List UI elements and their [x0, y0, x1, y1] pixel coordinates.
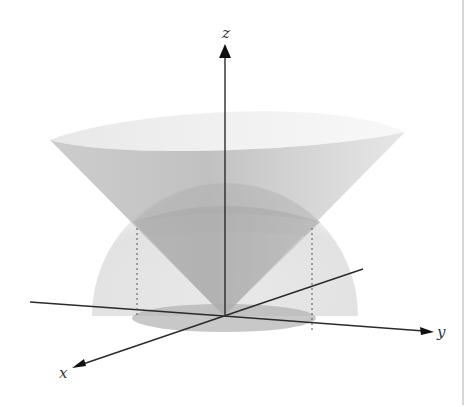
z-axis-arrow-icon: [219, 44, 231, 58]
z-axis-label: z: [221, 24, 230, 42]
x-axis-arrow-icon: [72, 359, 86, 368]
cone-hemisphere-diagram: z y x: [0, 0, 472, 407]
x-axis-label: x: [59, 364, 68, 382]
y-axis-label: y: [436, 323, 446, 341]
y-axis-arrow-icon: [420, 327, 434, 335]
